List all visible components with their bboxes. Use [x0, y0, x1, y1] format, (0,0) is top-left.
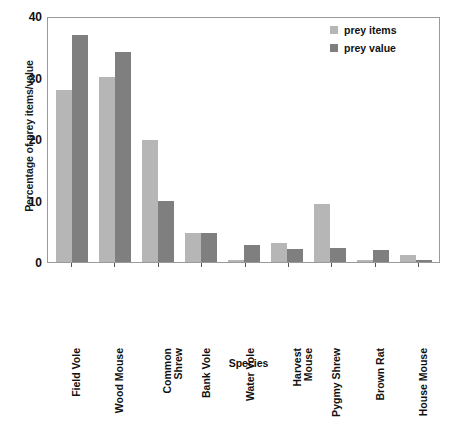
bar-prey-value: [244, 245, 260, 262]
bar-group: [136, 18, 179, 262]
legend-swatch-icon-prey-value: [330, 44, 338, 52]
bar-prey-value: [72, 35, 88, 262]
bar-prey-items: [99, 77, 115, 262]
bar-group: [93, 18, 136, 262]
legend-swatch-icon-prey-items: [330, 26, 338, 34]
bar-group: [222, 18, 265, 262]
x-axis-tick-mark: [71, 263, 72, 267]
bar-prey-value: [373, 250, 389, 262]
y-tick-label-30: 30: [10, 72, 42, 86]
bar-prey-value: [201, 233, 217, 262]
bar-prey-items: [357, 260, 373, 262]
bar-prey-items: [228, 260, 244, 262]
bar-prey-value: [158, 201, 174, 262]
bar-prey-items: [56, 90, 72, 262]
bar-prey-items: [185, 233, 201, 262]
x-axis-tick-mark: [245, 263, 246, 267]
bar-group: [50, 18, 93, 262]
x-axis-tick-mark: [418, 263, 419, 267]
x-axis-tick-mark: [201, 263, 202, 267]
legend-label-prey-value: prey value: [344, 42, 396, 54]
y-axis-tick-labels: 0 10 20 30 40: [8, 0, 42, 376]
bar-prey-value: [115, 52, 131, 262]
bar-group: [265, 18, 308, 262]
bar-prey-items: [142, 140, 158, 262]
x-axis-title: Species: [0, 357, 451, 369]
x-axis-category-labels: Field VoleWood MouseCommonShrewBank Vole…: [47, 268, 440, 350]
x-axis-tick-mark: [114, 263, 115, 267]
bar-group: [179, 18, 222, 262]
legend-label-prey-items: prey items: [344, 24, 397, 36]
bar-prey-value: [287, 249, 303, 262]
bar-prey-value: [330, 248, 346, 262]
y-tick-label-40: 40: [10, 10, 42, 24]
bar-prey-items: [400, 255, 416, 262]
x-axis-tick-mark: [288, 263, 289, 267]
bar-prey-items: [314, 204, 330, 262]
x-axis-tick-mark: [331, 263, 332, 267]
bar-group: [394, 18, 437, 262]
bar-prey-items: [271, 243, 287, 262]
bar-prey-value: [416, 260, 432, 262]
x-axis-tick-mark: [375, 263, 376, 267]
legend-item-prey-value: prey value: [330, 42, 397, 54]
legend-item-prey-items: prey items: [330, 24, 397, 36]
x-axis-tick-mark: [158, 263, 159, 267]
y-tick-label-10: 10: [10, 195, 42, 209]
y-tick-label-20: 20: [10, 133, 42, 147]
legend: prey items prey value: [330, 24, 397, 60]
y-tick-label-0: 0: [10, 256, 42, 270]
